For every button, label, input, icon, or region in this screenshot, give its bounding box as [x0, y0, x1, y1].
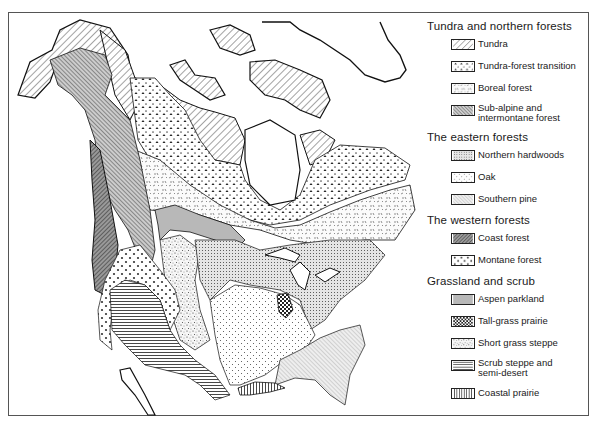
legend-item-aspen-parkland: Aspen parkland	[451, 292, 590, 306]
legend-item-oak: Oak	[451, 170, 590, 184]
tundra-forest-transition-swatch-icon	[451, 61, 475, 72]
legend-item-tundra-forest-transition: Tundra-forest transition	[451, 59, 590, 73]
northern-hardwoods-swatch-icon	[451, 150, 475, 161]
short-grass-steppe-swatch-icon	[451, 338, 475, 349]
legend-item-tall-grass-prairie: Tall-grass prairie	[451, 314, 590, 328]
legend-item-boreal-forest: Boreal forest	[451, 81, 590, 95]
region-tundra-baffin	[250, 60, 330, 118]
oak-swatch-icon	[451, 172, 475, 183]
legend-group-title: The eastern forests	[427, 131, 590, 143]
legend-group-tundra-northern: Tundra and northern forests Tundra Tundr…	[425, 20, 590, 123]
legend-group-western-forests: The western forests Coast forest Montane…	[425, 214, 590, 267]
legend-item-montane-forest: Montane forest	[451, 253, 590, 267]
legend-item-subalpine-intermontane: Sub-alpine and intermontane forest	[451, 103, 590, 123]
legend-item-short-grass-steppe: Short grass steppe	[451, 336, 590, 350]
baja-california	[120, 368, 155, 415]
coastal-prairie-swatch-icon	[451, 388, 475, 399]
montane-forest-swatch-icon	[451, 255, 475, 266]
legend-group-title: Tundra and northern forests	[427, 20, 590, 32]
legend-item-scrub-steppe: Scrub steppe and semi-desert	[451, 358, 590, 378]
legend-item-coastal-prairie: Coastal prairie	[451, 386, 590, 400]
boreal-forest-swatch-icon	[451, 83, 475, 94]
subalpine-swatch-icon	[451, 105, 475, 116]
legend-group-grassland-scrub: Grassland and scrub Aspen parkland Tall-…	[425, 275, 590, 400]
legend-group-eastern-forests: The eastern forests Northern hardwoods O…	[425, 131, 590, 206]
legend-group-title: The western forests	[427, 214, 590, 226]
region-tundra-islands-north	[210, 25, 255, 55]
region-tundra-arctic-islands	[170, 60, 225, 100]
coast-forest-swatch-icon	[451, 233, 475, 244]
legend-item-tundra: Tundra	[451, 37, 590, 51]
legend-group-title: Grassland and scrub	[427, 275, 590, 287]
tundra-swatch-icon	[451, 39, 475, 50]
tall-grass-prairie-swatch-icon	[451, 316, 475, 327]
southern-pine-swatch-icon	[451, 194, 475, 205]
legend-item-coast-forest: Coast forest	[451, 231, 590, 245]
aspen-parkland-swatch-icon	[451, 294, 475, 305]
legend-item-northern-hardwoods: Northern hardwoods	[451, 148, 590, 162]
legend-item-southern-pine: Southern pine	[451, 192, 590, 206]
scrub-steppe-swatch-icon	[451, 360, 475, 371]
map-legend: Tundra and northern forests Tundra Tundr…	[425, 20, 590, 408]
